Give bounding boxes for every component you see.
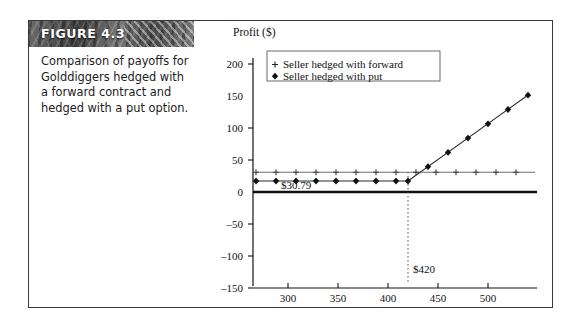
x-tick-label-450: 450 [430,292,447,304]
legend-label-forward: Seller hedged with forward [283,58,404,70]
y-tick-label-neg150: –150 [220,282,244,294]
y-tick-label-200: 200 [227,58,244,70]
figure-number-label: FIGURE 4.3 [41,26,125,41]
y-tick-label-neg50: –50 [226,218,244,230]
x-tick-label-500: 500 [480,292,497,304]
figure-caption-text: Comparison of payoffs for Golddiggers he… [41,54,189,116]
y-tick-label-100: 100 [227,122,244,134]
caption-block: FIGURE 4.3 Comparison of payoffs for Gol… [29,21,194,136]
y-axis-title: Profit ($) [233,26,276,39]
payoff-chart: Profit ($) 200 150 100 50 0 –50 –100 –15… [215,22,555,307]
x-tick-label-300: 300 [280,292,297,304]
x-tick-label-350: 350 [330,292,347,304]
strike-annotation-label: $420 [413,263,436,275]
x-tick-label-400: 400 [380,292,397,304]
y-tick-label-neg100: –100 [220,250,244,262]
y-tick-label-0: 0 [238,186,244,198]
y-tick-label-50: 50 [232,154,244,166]
y-tick-label-150: 150 [227,90,244,102]
put-series-line [255,95,528,181]
price-annotation-label: $30.79 [281,179,312,191]
x-axis-ticks [288,283,488,288]
y-axis-ticks [248,64,253,288]
legend-label-put: Seller hedged with put [283,70,382,82]
chart-legend: Seller hedged with forward Seller hedged… [267,51,440,82]
put-series-markers [253,92,531,185]
figure-root: FIGURE 4.3 Comparison of payoffs for Gol… [0,0,582,327]
chart-area: Profit ($) 200 150 100 50 0 –50 –100 –15… [215,22,555,307]
